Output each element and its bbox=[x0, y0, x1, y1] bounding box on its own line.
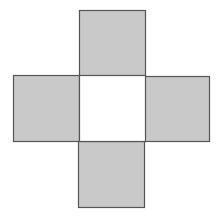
square-top bbox=[80, 11, 146, 77]
square-right bbox=[145, 77, 210, 142]
square-left bbox=[14, 76, 80, 142]
diagram-canvas bbox=[0, 0, 220, 216]
cross-diagram bbox=[0, 0, 220, 216]
square-center bbox=[80, 76, 146, 142]
square-bottom bbox=[79, 142, 145, 208]
